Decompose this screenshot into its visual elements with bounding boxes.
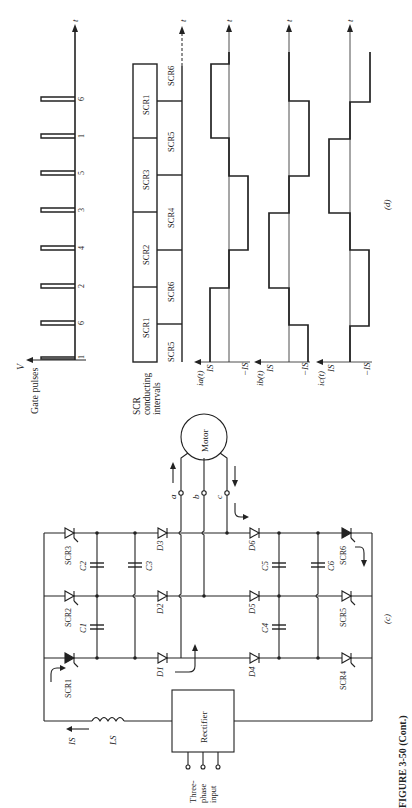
svg-text:2: 2 — [77, 284, 86, 288]
svg-text:SCR4: SCR4 — [339, 671, 348, 690]
svg-text:D1: D1 — [155, 667, 165, 678]
svg-text:IS: IS — [265, 364, 275, 373]
svg-text:4: 4 — [77, 246, 86, 250]
svg-text:phase: phase — [198, 783, 208, 803]
svg-text:D6: D6 — [247, 540, 257, 552]
svg-text:SCR6: SCR6 — [166, 66, 176, 86]
d2-icon — [158, 591, 167, 601]
d5-icon — [250, 591, 259, 601]
svg-text:t: t — [178, 19, 188, 22]
ib-label: ib(t) — [255, 371, 265, 387]
svg-text:t: t — [224, 19, 234, 22]
svg-text:D5: D5 — [247, 604, 257, 615]
svg-text:−IS: −IS — [300, 362, 310, 376]
gate-pulses-plot — [26, 24, 86, 363]
svg-text:c: c — [214, 495, 224, 499]
svg-text:1: 1 — [77, 355, 86, 359]
d3-icon — [158, 528, 167, 538]
svg-text:−IS: −IS — [362, 362, 372, 376]
svg-text:SCR1: SCR1 — [141, 95, 151, 115]
svg-text:SCR3: SCR3 — [141, 170, 151, 190]
figure-canvas: 1 6 2 4 3 5 1 6 t V Gate pulses SCR1 SCR… — [0, 0, 412, 808]
svg-text:C1: C1 — [78, 623, 88, 633]
svg-text:SCR6: SCR6 — [166, 282, 176, 302]
motor-label: Motor — [200, 429, 210, 452]
svg-text:C4: C4 — [260, 622, 270, 633]
svg-text:SCR1: SCR1 — [64, 679, 73, 698]
svg-text:IS: IS — [67, 737, 77, 746]
scr1-icon — [65, 653, 78, 667]
d6-icon — [250, 528, 259, 538]
svg-text:SCR4: SCR4 — [166, 207, 176, 228]
svg-text:C6: C6 — [326, 560, 336, 571]
scr2-icon — [65, 591, 78, 605]
d4-icon — [250, 653, 259, 663]
panel-d-label: (d) — [382, 200, 392, 211]
svg-text:D2: D2 — [155, 603, 165, 615]
svg-text:IS: IS — [205, 364, 215, 373]
svg-text:3: 3 — [77, 208, 86, 212]
svg-text:5: 5 — [77, 171, 86, 175]
svg-text:SCR2: SCR2 — [64, 608, 73, 627]
scr-conducting-chart — [133, 26, 185, 362]
svg-text:C5: C5 — [260, 561, 270, 571]
svg-text:intervals: intervals — [152, 382, 162, 415]
svg-text:−IS: −IS — [240, 362, 250, 376]
svg-text:C3: C3 — [144, 561, 154, 571]
ia-label: ia(t) — [195, 371, 205, 387]
svg-text:t: t — [70, 19, 80, 22]
svg-text:6: 6 — [77, 321, 86, 325]
scr3-icon — [65, 528, 78, 542]
svg-text:SCR: SCR — [132, 396, 142, 415]
svg-text:Three-: Three- — [188, 780, 198, 803]
ic-label: ic(t) — [316, 371, 326, 386]
current-ib-plot — [254, 24, 310, 365]
svg-text:input: input — [208, 785, 218, 803]
svg-text:t: t — [345, 19, 355, 22]
svg-text:t: t — [284, 19, 294, 22]
svg-text:SCR6: SCR6 — [339, 546, 348, 565]
svg-text:D3: D3 — [155, 541, 165, 552]
gate-pulses-title: Gate pulses — [29, 368, 40, 414]
svg-text:SCR3: SCR3 — [64, 546, 73, 565]
panel-c-label: (c) — [382, 614, 392, 624]
svg-text:a: a — [168, 494, 178, 499]
current-ic-plot — [316, 24, 372, 365]
svg-text:SCR1: SCR1 — [141, 318, 151, 338]
scr4-icon — [342, 653, 355, 667]
scr5-icon — [342, 591, 355, 605]
svg-text:D4: D4 — [247, 666, 257, 678]
svg-text:conducting: conducting — [142, 373, 152, 415]
scr6-icon — [342, 528, 355, 542]
svg-text:b: b — [191, 494, 201, 499]
svg-text:SCR5: SCR5 — [339, 608, 348, 627]
svg-text:C2: C2 — [78, 560, 88, 571]
scr-conducting-labels: SCR1 SCR2 SCR3 SCR1 SCR5 SCR6 SCR4 SCR5 … — [132, 19, 188, 415]
svg-text:V: V — [15, 362, 26, 370]
svg-text:6: 6 — [77, 97, 86, 101]
svg-text:IS: IS — [326, 364, 336, 373]
d1-icon — [158, 653, 167, 663]
svg-text:SCR2: SCR2 — [141, 245, 151, 265]
figure-caption: FIGURE 3-50 (Cont.) — [397, 716, 409, 808]
semiconductor-symbols — [65, 528, 355, 667]
svg-text:1: 1 — [77, 134, 86, 138]
svg-text:LS: LS — [108, 735, 118, 746]
svg-text:SCR5: SCR5 — [166, 342, 176, 362]
rectifier-label: Rectifier — [199, 712, 209, 743]
current-ia-plot — [194, 24, 250, 365]
svg-text:SCR5: SCR5 — [166, 132, 176, 152]
circuit-labels: Motor a b c Rectifier Three- phase input… — [64, 429, 409, 808]
